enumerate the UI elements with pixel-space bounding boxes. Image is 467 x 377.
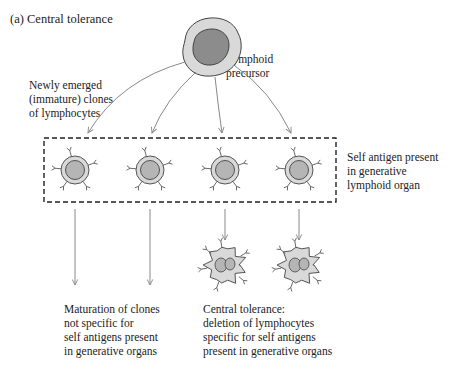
downward-arrows	[75, 209, 299, 285]
immature-lymphocyte	[202, 147, 248, 190]
receptor-icon	[277, 246, 286, 254]
receptor-icon	[60, 181, 67, 190]
receptor-icon	[83, 181, 90, 190]
receptor-icon	[284, 181, 291, 190]
receptor-icon	[291, 147, 296, 157]
receptor-icon	[163, 160, 173, 165]
receptor-icon	[203, 246, 212, 254]
receptor-icon	[88, 160, 98, 165]
arrow-to-clone-2	[152, 72, 196, 133]
deleted-cells	[198, 238, 324, 292]
receptor-icon	[214, 282, 219, 292]
apoptotic-lymphocyte	[198, 238, 250, 292]
receptor-icon	[217, 147, 222, 157]
receptor-icon	[67, 147, 72, 157]
immature-lymphocyte	[127, 147, 173, 190]
receptor-icon	[142, 147, 147, 157]
precursor-arrows	[88, 62, 291, 133]
immature-lymphocyte	[276, 147, 322, 190]
receptor-icon	[210, 181, 217, 190]
receptor-icon	[218, 238, 222, 248]
receptor-icon	[241, 249, 250, 256]
arrow-to-clone-3	[215, 77, 222, 133]
immature-lymphocyte	[52, 147, 98, 190]
nuclear-fragment	[299, 258, 309, 270]
receptor-icon	[315, 249, 324, 256]
lymphocyte-nucleus	[141, 161, 160, 180]
receptor-icon	[272, 268, 282, 272]
receptor-icon	[202, 166, 211, 170]
receptor-icon	[127, 166, 136, 170]
lymphocyte-nucleus	[66, 161, 85, 180]
receptor-icon	[288, 282, 293, 292]
lymphocyte-nucleus	[216, 161, 235, 180]
receptor-icon	[52, 166, 61, 170]
lymphoid-precursor-cell	[183, 18, 241, 76]
receptor-icon	[312, 160, 322, 165]
receptor-icon	[158, 181, 165, 190]
receptor-icon	[238, 160, 248, 165]
arrow-to-clone-1	[88, 62, 185, 133]
arrow-to-clone-4	[235, 66, 291, 133]
nuclear-fragment	[225, 258, 235, 270]
receptor-icon	[292, 238, 296, 248]
receptor-icon	[198, 268, 208, 272]
receptor-icon	[233, 181, 240, 190]
receptor-icon	[313, 277, 322, 285]
immature-clones	[52, 147, 322, 190]
receptor-icon	[135, 181, 142, 190]
apoptotic-lymphocyte	[272, 238, 324, 292]
receptor-icon	[307, 181, 314, 190]
central-tolerance-diagram	[0, 0, 467, 377]
receptor-icon	[239, 277, 248, 285]
receptor-icon	[276, 166, 285, 170]
lymphocyte-nucleus	[290, 161, 309, 180]
precursor-nucleus	[193, 29, 229, 65]
